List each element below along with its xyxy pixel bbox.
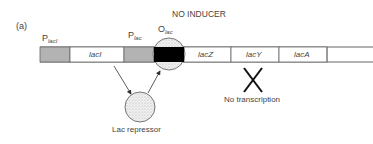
arrow-laci-to-repressor [114,66,131,94]
lac-repressor-label: Lac repressor [112,126,161,134]
laci-gene-label: lacI [89,51,101,59]
panel-label: (a) [16,22,27,31]
no-transcription-x-icon [244,68,262,92]
lac-repressor-circle [125,92,155,122]
operator-lac-segment [154,47,184,62]
promoter-lac-segment [124,47,154,62]
promoter-laci-label: PlacI [42,34,57,44]
promoter-laci-segment [40,47,70,62]
laca-gene-label: lacA [294,51,310,59]
promoter-lac-label: Plac [128,31,142,41]
lacy-gene-label: lacY [246,51,262,59]
operon-diagram [0,0,373,144]
figure-title: NO INDUCER [172,10,226,19]
no-transcription-label: No transcription [224,96,280,104]
arrow-repressor-to-operator [148,71,160,93]
operator-lac-label: Olac [158,25,173,35]
lacz-gene-label: lacZ [198,51,213,59]
